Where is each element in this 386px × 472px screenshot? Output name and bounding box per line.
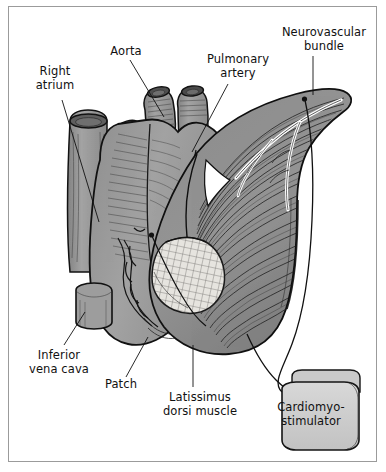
mesh-patch [152,238,225,314]
label-inferior-vena-cava: Inferior vena cava [22,348,96,376]
label-patch: Patch [98,377,144,391]
label-aorta: Aorta [97,44,155,58]
inferior-vena-cava-stump [76,283,112,329]
label-pulmonary-artery: Pulmonary artery [200,52,276,80]
label-right-atrium: Right atrium [22,64,88,92]
label-neurovascular-bundle: Neurovascular bundle [272,25,376,53]
label-latissimus-dorsi-muscle: Latissimus dorsi muscle [158,390,242,418]
label-cardiomyostimulator: Cardiomyo- stimulator [268,400,354,428]
figure-page: Right atrium Aorta Pulmonary artery Neur… [0,0,386,472]
